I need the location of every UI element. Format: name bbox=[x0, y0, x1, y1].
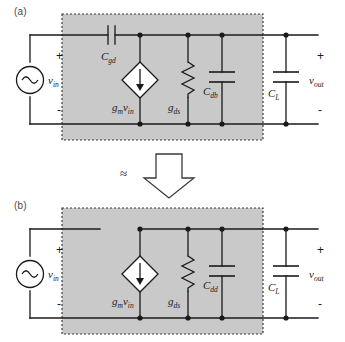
down-arrow-icon bbox=[0, 152, 345, 200]
label-cl: CL bbox=[268, 282, 280, 296]
label-cgd: Cgd bbox=[101, 51, 116, 65]
input-minus-sign: - bbox=[57, 104, 61, 116]
label-vin: vin bbox=[48, 75, 59, 89]
input-plus-sign: + bbox=[56, 50, 63, 62]
label-gds: gds bbox=[168, 102, 180, 116]
input-plus-sign: + bbox=[56, 244, 63, 256]
label-cdd: Cdd bbox=[203, 280, 218, 294]
small-signal-model-box bbox=[62, 14, 263, 140]
output-plus-sign: + bbox=[317, 50, 324, 62]
label-cl: CL bbox=[268, 88, 280, 102]
output-plus-sign: + bbox=[317, 244, 324, 256]
label-gds: gds bbox=[168, 296, 180, 310]
label-cdb: Cdb bbox=[203, 86, 218, 100]
small-signal-model-box bbox=[62, 208, 263, 334]
panel-a: (a) bbox=[0, 0, 345, 160]
equivalence-bridge bbox=[0, 152, 345, 200]
label-gm-vin: gmvin bbox=[112, 102, 134, 116]
approx-symbol: ≈ bbox=[120, 166, 127, 182]
label-gm-vin: gmvin bbox=[112, 296, 134, 310]
label-vout: vout bbox=[309, 269, 323, 283]
label-vin: vin bbox=[48, 269, 59, 283]
output-minus-sign: - bbox=[318, 104, 322, 116]
panel-b: (b) bbox=[0, 194, 345, 342]
output-minus-sign: - bbox=[318, 298, 322, 310]
label-vout: vout bbox=[309, 75, 323, 89]
input-minus-sign: - bbox=[57, 298, 61, 310]
